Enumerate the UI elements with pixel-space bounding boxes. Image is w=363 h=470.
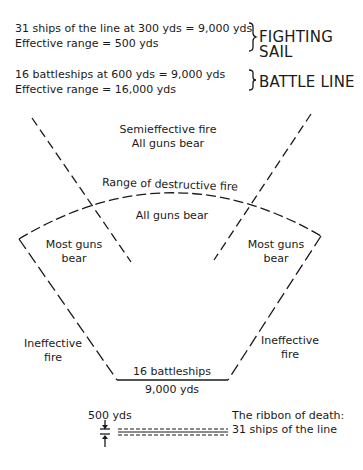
ribbon-caption-2: 31 ships of the line [232, 423, 337, 436]
zone-right-ineffective-2: fire [281, 348, 299, 361]
brace-battle-line [249, 70, 256, 90]
zone-all-guns: All guns bear [136, 209, 208, 222]
battle-line-label: BATTLE LINE [259, 74, 355, 90]
battle-line-desc-2: Effective range = 16,000 yds [15, 83, 176, 96]
zone-left-most-guns: Most guns [46, 238, 102, 251]
zone-semieffective-guns: All guns bear [132, 137, 204, 150]
zone-right-most-guns-2: bear [263, 252, 288, 265]
zone-left-ineffective: Ineffective [24, 337, 82, 350]
zone-left-ineffective-2: fire [44, 351, 62, 364]
zone-left-most-guns-2: bear [61, 252, 86, 265]
zone-right-ineffective: Ineffective [261, 334, 319, 347]
fighting-sail-desc-2: Effective range = 500 yds [15, 37, 158, 50]
zone-right-most-guns: Most guns [248, 238, 304, 251]
base-ships-label: 16 battleships [133, 365, 211, 378]
fighting-sail-label-2: SAIL [259, 44, 293, 60]
zone-semieffective: Semieffective fire [120, 123, 217, 136]
battle-line-desc-1: 16 battleships at 600 yds = 9,000 yds [15, 68, 225, 81]
fighting-sail-desc-1: 31 ships of the line at 300 yds = 9,000 … [15, 22, 252, 35]
base-length-label: 9,000 yds [145, 383, 199, 396]
ribbon-range-label: 500 yds [88, 409, 132, 422]
ribbon-caption-1: The ribbon of death: [232, 409, 344, 422]
